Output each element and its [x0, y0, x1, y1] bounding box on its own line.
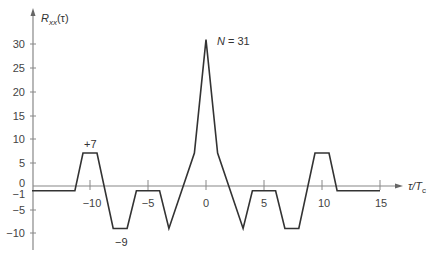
y-axis-label-main: R: [41, 12, 49, 24]
y-tick-label: 5: [19, 157, 25, 169]
y-tick-label: 25: [13, 62, 25, 74]
x-axis-arrow-icon: [395, 184, 403, 189]
x-tick-label: −5: [142, 197, 155, 209]
x-tick-label: 0: [203, 197, 209, 209]
annotation-plus7: +7: [84, 138, 97, 150]
x-tick-label: −10: [83, 197, 102, 209]
x-tick-label: 5: [261, 197, 267, 209]
annotation-minus9: −9: [115, 236, 128, 248]
x-tick-label: 15: [375, 197, 387, 209]
y-axis-label-arg: (τ): [57, 12, 69, 24]
autocorrelation-chart: 30 25 20 15 10 5 0 −1 −5 −10 −10 −5 0 5 …: [0, 0, 440, 259]
y-tick-label: 10: [13, 133, 25, 145]
y-tick-label: −1: [12, 188, 25, 200]
y-tick-labels: 30 25 20 15 10 5 0 −1 −5 −10: [6, 38, 25, 239]
y-tick-label: 15: [13, 110, 25, 122]
y-axis-arrow-icon: [31, 8, 36, 16]
x-axis-label-sub: c: [422, 186, 426, 195]
annotation-peak: N = 31: [217, 35, 250, 47]
y-tick-label: −5: [12, 204, 25, 216]
y-tick-label: 20: [13, 86, 25, 98]
x-axis-label: τ/Tc: [408, 180, 426, 195]
y-tick-label: −10: [6, 227, 25, 239]
y-tick-label: 30: [13, 38, 25, 50]
y-axis-label: Rxx(τ): [41, 12, 69, 27]
x-axis-label-main: τ/T: [408, 180, 423, 192]
x-tick-label: 10: [318, 197, 330, 209]
